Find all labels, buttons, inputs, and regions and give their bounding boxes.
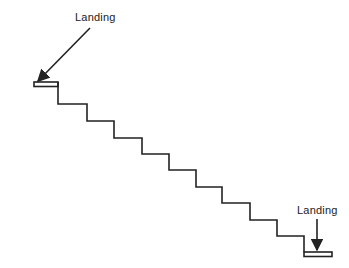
top-landing-arrow xyxy=(38,28,90,81)
top-landing-label: Landing xyxy=(75,11,116,23)
top-landing xyxy=(34,82,58,87)
bottom-landing xyxy=(304,252,332,257)
bottom-landing-label: Landing xyxy=(297,204,338,216)
stair-steps xyxy=(58,82,304,252)
staircase-diagram xyxy=(0,0,349,268)
